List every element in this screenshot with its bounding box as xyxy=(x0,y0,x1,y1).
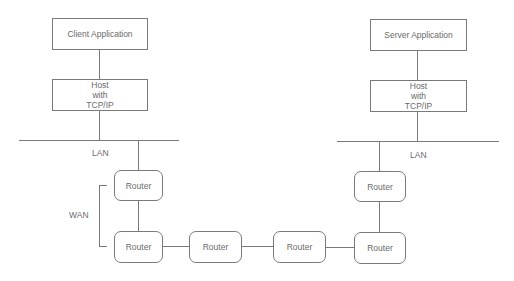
server-app-to-host-connector xyxy=(417,51,418,80)
router-right-lower: Router xyxy=(354,232,406,264)
server-application-label: Server Application xyxy=(384,30,453,40)
router-link-4-5 xyxy=(326,247,354,248)
wan-bracket xyxy=(99,185,107,247)
router-label: Router xyxy=(203,242,229,252)
client-application-box: Client Application xyxy=(52,18,148,50)
router-label: Router xyxy=(367,243,393,253)
router-left-vertical-connector xyxy=(138,201,139,231)
router-right-upper: Router xyxy=(354,171,406,202)
lan-left-label: LAN xyxy=(92,148,109,158)
router-left-lower: Router xyxy=(114,231,163,263)
router-label: Router xyxy=(287,242,313,252)
router-left-upper: Router xyxy=(114,170,163,201)
client-host-label: Host with TCP/IP xyxy=(86,80,113,110)
network-diagram: Client Application Host with TCP/IP LAN … xyxy=(0,0,514,281)
server-host-label: Host with TCP/IP xyxy=(405,81,432,111)
server-host-to-lan-connector xyxy=(417,112,418,141)
server-host-box: Host with TCP/IP xyxy=(370,80,467,112)
router-link-3-4 xyxy=(242,246,273,247)
server-application-box: Server Application xyxy=(370,19,467,51)
lan-right-line xyxy=(337,141,499,142)
lan-left-to-router-connector xyxy=(138,140,139,170)
lan-right-to-router-connector xyxy=(379,141,380,171)
router-label: Router xyxy=(367,182,393,192)
client-application-label: Client Application xyxy=(67,29,132,39)
client-host-to-lan-connector xyxy=(99,111,100,140)
lan-right-label: LAN xyxy=(410,150,427,160)
router-middle-right: Router xyxy=(273,231,326,263)
wan-label: WAN xyxy=(69,210,89,220)
lan-left-line xyxy=(19,140,179,141)
router-right-vertical-connector xyxy=(379,202,380,232)
client-host-box: Host with TCP/IP xyxy=(52,79,148,111)
router-link-2-3 xyxy=(163,246,189,247)
router-middle-left: Router xyxy=(189,231,242,263)
client-app-to-host-connector xyxy=(99,50,100,79)
router-label: Router xyxy=(126,242,152,252)
router-label: Router xyxy=(126,181,152,191)
